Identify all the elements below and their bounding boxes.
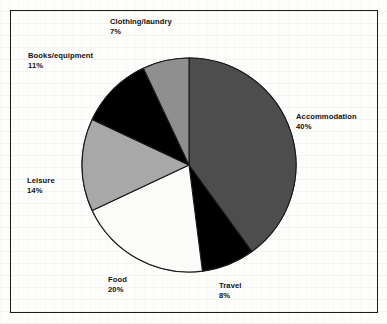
pie-label-food-value: 20% <box>108 285 127 295</box>
pie-label-food: Food 20% <box>108 275 127 294</box>
pie-label-leisure-value: 14% <box>27 186 55 196</box>
pie-slice-group <box>82 58 296 272</box>
pie-label-food-name: Food <box>108 275 127 285</box>
pie-label-books-equipment-name: Books/equipment <box>28 51 93 61</box>
pie-label-travel-name: Travel <box>219 281 242 291</box>
pie-label-clothing-laundry: Clothing/laundry 7% <box>110 17 172 36</box>
pie-label-books-equipment: Books/equipment 11% <box>28 51 93 70</box>
pie-label-books-equipment-value: 11% <box>28 61 93 71</box>
pie-label-leisure-name: Leisure <box>27 176 55 186</box>
pie-label-accommodation-name: Accommodation <box>296 112 357 122</box>
pie-label-leisure: Leisure 14% <box>27 176 55 195</box>
pie-chart: Accommodation 40% Travel 8% Food 20% Lei… <box>0 0 387 324</box>
pie-label-travel-value: 8% <box>219 291 242 301</box>
pie-label-accommodation-value: 40% <box>296 122 357 132</box>
pie-label-accommodation: Accommodation 40% <box>296 112 357 131</box>
pie-label-travel: Travel 8% <box>219 281 242 300</box>
pie-label-clothing-laundry-name: Clothing/laundry <box>110 17 172 27</box>
pie-label-clothing-laundry-value: 7% <box>110 27 172 37</box>
pie-chart-svg <box>0 0 387 324</box>
